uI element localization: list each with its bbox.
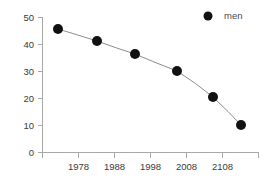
chart-screenshot: 0 10 20 30 40 50 1978 1988 1998 2008 210… bbox=[0, 0, 277, 184]
data-point-men-1998[interactable] bbox=[172, 66, 182, 76]
y-tick-label-0: 0 bbox=[29, 147, 34, 158]
x-tick-label-2008: 2008 bbox=[176, 161, 197, 172]
y-tick-label-20: 20 bbox=[23, 93, 34, 104]
y-tick-label-40: 40 bbox=[23, 39, 34, 50]
legend-marker-men bbox=[204, 12, 213, 21]
x-tick-label-1978: 1978 bbox=[68, 161, 89, 172]
data-point-men-1973[interactable] bbox=[53, 24, 63, 34]
chart-background bbox=[0, 0, 277, 184]
line-chart: 0 10 20 30 40 50 1978 1988 1998 2008 210… bbox=[0, 0, 277, 184]
data-point-men-1978[interactable] bbox=[92, 36, 102, 46]
legend-label-men: men bbox=[224, 10, 242, 21]
y-tick-label-50: 50 bbox=[23, 12, 34, 23]
y-tick-label-30: 30 bbox=[23, 66, 34, 77]
data-point-men-2108[interactable] bbox=[236, 120, 246, 130]
x-tick-label-2108: 2108 bbox=[212, 161, 233, 172]
y-tick-label-10: 10 bbox=[23, 120, 34, 131]
x-tick-label-1988: 1988 bbox=[104, 161, 125, 172]
data-point-men-2008[interactable] bbox=[208, 92, 218, 102]
x-tick-label-1998: 1998 bbox=[140, 161, 161, 172]
data-point-men-1988[interactable] bbox=[130, 49, 140, 59]
